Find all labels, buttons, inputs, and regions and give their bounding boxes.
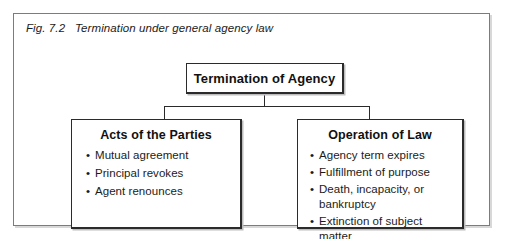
node-operation-of-law: Operation of Law • Agency term expires •… [297, 119, 464, 229]
list-item-label: Fulfillment of purpose [319, 166, 430, 178]
bullet-dot-icon: • [86, 148, 90, 163]
node-termination-of-agency: Termination of Agency [186, 63, 344, 94]
connector-horizontal-bus [164, 106, 370, 107]
list-item: • Fulfillment of purpose [310, 165, 456, 180]
figure-caption: Fig. 7.2 Termination under general agenc… [26, 22, 273, 34]
list-item: • Death, incapacity, or bankruptcy [310, 182, 456, 212]
list-item: • Agent renounces [86, 184, 234, 199]
list-item-label: Principal revokes [95, 167, 183, 179]
bullet-dot-icon: • [310, 165, 314, 180]
list-item-label: Agent renounces [95, 185, 183, 197]
node-operation-title: Operation of Law [298, 120, 462, 142]
connector-drop-right [369, 106, 370, 120]
bullet-dot-icon: • [86, 184, 90, 199]
node-root-title: Termination of Agency [194, 71, 336, 86]
bullet-dot-icon: • [310, 182, 314, 197]
bullet-dot-icon: • [310, 214, 314, 229]
list-item: • Mutual agreement [86, 148, 234, 163]
list-item-label: Agency term expires [319, 149, 425, 161]
bullet-dot-icon: • [86, 166, 90, 181]
acts-bullet-list: • Mutual agreement • Principal revokes •… [72, 148, 240, 199]
node-acts-title: Acts of the Parties [72, 120, 240, 142]
list-item-label: Mutual agreement [95, 149, 189, 161]
list-item: • Agency term expires [310, 148, 456, 163]
connector-drop-left [164, 106, 165, 120]
bullet-dot-icon: • [310, 148, 314, 163]
operation-bullet-list: • Agency term expires • Fulfillment of p… [298, 148, 462, 239]
list-item: • Extinction of subject matter [310, 214, 456, 239]
list-item-label: Extinction of subject matter [319, 215, 422, 239]
list-item: • Principal revokes [86, 166, 234, 181]
figure-frame: Fig. 7.2 Termination under general agenc… [13, 13, 490, 226]
list-item-label: Death, incapacity, or bankruptcy [319, 183, 424, 210]
node-acts-of-the-parties: Acts of the Parties • Mutual agreement •… [71, 119, 242, 229]
